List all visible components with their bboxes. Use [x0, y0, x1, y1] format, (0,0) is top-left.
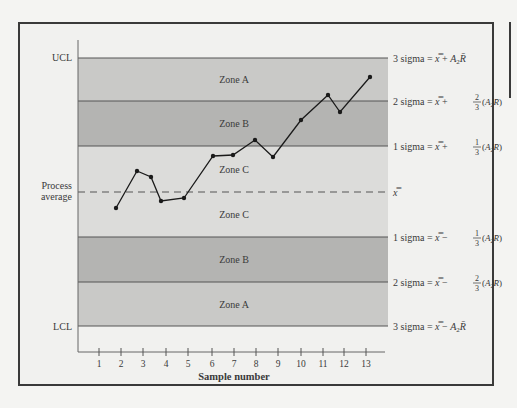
svg-text:11: 11 — [318, 359, 327, 369]
svg-text:12: 12 — [339, 359, 349, 369]
svg-text:(A2R̄): (A2R̄) — [482, 142, 502, 153]
svg-text:2 sigma = x̿ +: 2 sigma = x̿ + — [393, 96, 448, 107]
zone-c-lower-label: Zone C — [219, 209, 249, 220]
svg-text:3: 3 — [475, 148, 479, 157]
svg-text:(A2R̄): (A2R̄) — [482, 278, 502, 289]
lcl-label: LCL — [53, 321, 72, 332]
svg-text:1 sigma = x̿ +: 1 sigma = x̿ + — [393, 141, 448, 152]
right-annotations: 3 sigma = x̿ + A2R̄ 2 sigma = x̿ + 2 3 (… — [392, 53, 502, 334]
svg-text:10: 10 — [296, 359, 306, 369]
annotation-plus-3-sigma: 3 sigma = x̿ + A2R̄ — [393, 53, 466, 66]
zone-b-upper-label: Zone B — [219, 118, 249, 129]
svg-text:3: 3 — [475, 239, 479, 248]
x-axis-label: Sample number — [198, 371, 270, 382]
svg-text:4: 4 — [164, 359, 169, 369]
svg-text:9: 9 — [276, 359, 281, 369]
svg-text:1 sigma = x̿ −: 1 sigma = x̿ − — [393, 232, 448, 243]
svg-text:13: 13 — [361, 359, 371, 369]
svg-text:1: 1 — [475, 229, 479, 238]
svg-text:1: 1 — [97, 359, 102, 369]
annotation-plus-2-sigma: 2 sigma = x̿ + 2 3 (A2R̄) — [393, 93, 502, 112]
svg-text:3: 3 — [475, 103, 479, 112]
zone-c-upper-label: Zone C — [219, 164, 249, 175]
annotation-minus-1-sigma: 1 sigma = x̿ − 1 3 (A2R̄) — [393, 229, 502, 248]
svg-text:3: 3 — [141, 359, 146, 369]
process-average-label-line1: Process — [41, 180, 72, 191]
x-tick-labels: 1 2 3 4 5 6 7 8 9 10 11 12 13 — [97, 359, 371, 369]
svg-text:2: 2 — [475, 274, 479, 283]
svg-text:2: 2 — [119, 359, 124, 369]
svg-text:7: 7 — [232, 359, 237, 369]
svg-text:x̿: x̿ — [392, 187, 401, 198]
svg-text:2 sigma = x̿ −: 2 sigma = x̿ − — [393, 277, 448, 288]
zone-a-lower-label: Zone A — [219, 299, 249, 310]
annotation-plus-1-sigma: 1 sigma = x̿ + 1 3 (A2R̄) — [393, 138, 502, 157]
svg-text:3: 3 — [475, 284, 479, 293]
zone-b-lower-label: Zone B — [219, 254, 249, 265]
annotation-minus-3-sigma: 3 sigma = x̿ − A2R̄ — [393, 321, 466, 334]
svg-text:(A2R̄): (A2R̄) — [482, 233, 502, 244]
svg-text:6: 6 — [210, 359, 215, 369]
svg-text:(A2R̄): (A2R̄) — [482, 97, 502, 108]
zone-a-upper-label: Zone A — [219, 74, 249, 85]
svg-text:3 sigma = x̿ − A2R̄: 3 sigma = x̿ − A2R̄ — [393, 321, 466, 334]
control-chart: 1 2 3 4 5 6 7 8 9 10 11 12 13 Sample num… — [0, 0, 517, 408]
svg-text:2: 2 — [475, 93, 479, 102]
svg-text:3 sigma = x̿ + A2R̄: 3 sigma = x̿ + A2R̄ — [393, 53, 466, 66]
svg-text:8: 8 — [254, 359, 259, 369]
annotation-grand-mean: x̿ — [392, 187, 401, 198]
annotation-minus-2-sigma: 2 sigma = x̿ − 2 3 (A2R̄) — [393, 274, 502, 293]
ucl-label: UCL — [52, 52, 72, 63]
svg-text:1: 1 — [475, 138, 479, 147]
svg-text:5: 5 — [186, 359, 191, 369]
process-average-label-line2: average — [41, 191, 73, 202]
